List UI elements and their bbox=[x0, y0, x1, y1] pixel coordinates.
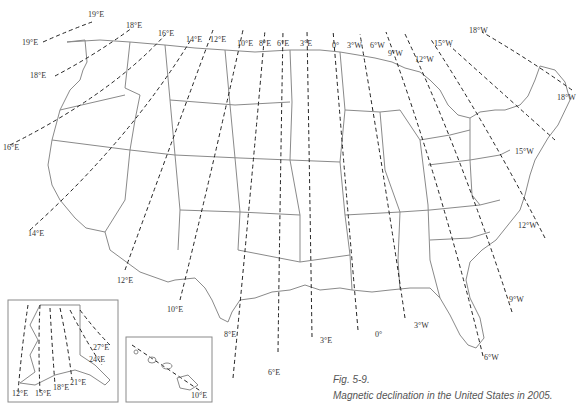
svg-text:10°E: 10°E bbox=[167, 305, 183, 314]
svg-text:21°E: 21°E bbox=[70, 378, 86, 387]
alaska-inset: 12°E 15°E 18°E 21°E 24°E 27°E bbox=[8, 300, 118, 402]
svg-text:3°W: 3°W bbox=[347, 41, 362, 50]
svg-text:14°E: 14°E bbox=[186, 35, 202, 44]
svg-text:3°E: 3°E bbox=[300, 39, 312, 48]
figure-caption: Fig. 5-9. Magnetic declination in the Un… bbox=[333, 372, 553, 404]
svg-text:15°W: 15°W bbox=[515, 147, 534, 156]
svg-text:0°: 0° bbox=[375, 330, 382, 339]
svg-text:9°W: 9°W bbox=[388, 49, 403, 58]
svg-text:9°W: 9°W bbox=[509, 295, 524, 304]
svg-text:8°E: 8°E bbox=[224, 330, 236, 339]
declination-map: 19°E 19°E 18°E 18°E 16°E 16°E 14°E 14°E … bbox=[0, 0, 587, 408]
svg-text:18°E: 18°E bbox=[30, 71, 46, 80]
svg-text:6°W: 6°W bbox=[370, 41, 385, 50]
svg-text:19°E: 19°E bbox=[22, 38, 38, 47]
svg-text:18°W: 18°W bbox=[557, 93, 576, 102]
hawaii-inset: 10°E bbox=[126, 337, 212, 402]
svg-text:12°W: 12°W bbox=[415, 55, 434, 64]
svg-text:16°E: 16°E bbox=[158, 29, 174, 38]
figure-caption-text: Magnetic declination in the United State… bbox=[333, 388, 553, 404]
svg-text:6°E: 6°E bbox=[268, 368, 280, 377]
svg-text:19°E: 19°E bbox=[88, 10, 104, 19]
svg-text:12°E: 12°E bbox=[117, 276, 133, 285]
figure-number: Fig. 5-9. bbox=[333, 372, 553, 388]
svg-text:18°E: 18°E bbox=[53, 383, 69, 392]
svg-text:10°E: 10°E bbox=[237, 39, 253, 48]
us-outline bbox=[48, 40, 570, 348]
svg-text:0°: 0° bbox=[332, 41, 339, 50]
svg-text:16°E: 16°E bbox=[3, 143, 19, 152]
svg-text:18°E: 18°E bbox=[126, 21, 142, 30]
svg-text:12°E: 12°E bbox=[210, 35, 226, 44]
svg-text:3°E: 3°E bbox=[320, 336, 332, 345]
svg-text:12°W: 12°W bbox=[518, 221, 537, 230]
svg-text:6°E: 6°E bbox=[277, 39, 289, 48]
svg-text:3°W: 3°W bbox=[414, 321, 429, 330]
svg-text:15°W: 15°W bbox=[434, 39, 453, 48]
svg-text:15°E: 15°E bbox=[35, 389, 51, 398]
svg-text:10°E: 10°E bbox=[191, 391, 207, 400]
svg-text:8°E: 8°E bbox=[259, 39, 271, 48]
svg-text:27°E: 27°E bbox=[93, 343, 109, 352]
svg-text:24°E: 24°E bbox=[89, 355, 105, 364]
svg-text:18°W: 18°W bbox=[469, 26, 488, 35]
svg-text:6°W: 6°W bbox=[484, 353, 499, 362]
svg-text:14°E: 14°E bbox=[28, 229, 44, 238]
svg-text:12°E: 12°E bbox=[12, 389, 28, 398]
